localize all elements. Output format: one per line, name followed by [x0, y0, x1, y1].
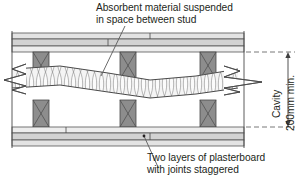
annotation-plasterboard: Two layers of plasterboardwith joints st… [147, 152, 265, 175]
timber-stud-bottom-right [200, 100, 216, 127]
cavity-label: Cavity [271, 90, 282, 118]
bottom-sole-plate [12, 127, 244, 133]
plasterboard-layer-outer-top [12, 33, 244, 39]
top-head-plate [12, 46, 244, 52]
diagram-canvas: Absorbent material suspendedin space bet… [0, 0, 297, 181]
top-wall-leaf [12, 33, 244, 52]
plasterboard-layer-inner-bottom [12, 133, 244, 140]
leader-dot-plasterboard [143, 135, 146, 138]
plasterboard-layer-inner-top [12, 39, 244, 46]
bottom-stud-row [33, 100, 216, 127]
annotation-plasterboard-line2: with joints staggered [147, 164, 239, 175]
annotation-absorbent-material-line2: in space between stud [96, 14, 196, 25]
cavity-dimension-label: 200mm min. [285, 75, 296, 131]
timber-stud-bottom-left [33, 100, 49, 127]
break-line-left [4, 64, 26, 94]
plasterboard-layer-outer-bottom [12, 140, 244, 146]
annotation-absorbent-material: Absorbent material suspendedin space bet… [96, 2, 233, 25]
dimension-arrow-top [285, 52, 290, 58]
break-line-right [224, 66, 262, 95]
annotation-plasterboard-line1: Two layers of plasterboard [147, 152, 265, 163]
annotation-absorbent-material-line1: Absorbent material suspended [96, 2, 233, 13]
timber-stud-bottom-middle [120, 100, 136, 127]
bottom-wall-leaf [12, 127, 244, 146]
